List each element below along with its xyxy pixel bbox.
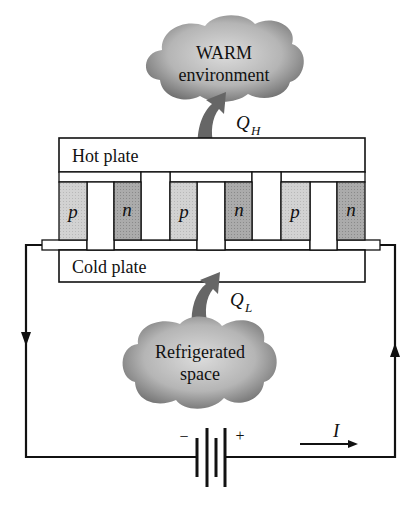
top-connectors (59, 172, 365, 182)
element-p: p (170, 182, 197, 240)
hot-plate-label: Hot plate (72, 146, 138, 166)
svg-text:n: n (234, 199, 244, 220)
current-label: I (332, 420, 341, 441)
element-p: p (59, 182, 87, 240)
thermoelectric-diagram: WARM environment Q H Hot plate Cold plat… (0, 0, 418, 506)
warm-label-line1: WARM (196, 43, 252, 63)
battery-minus: − (179, 428, 188, 445)
svg-text:p: p (288, 201, 300, 222)
current-direction-down-arrow (21, 332, 31, 346)
svg-text:n: n (346, 199, 356, 220)
battery-plus: + (235, 427, 244, 444)
refrigerated-space-cloud: Refrigerated space (123, 317, 277, 409)
current-arrow (300, 440, 358, 448)
cold-plate-label: Cold plate (72, 257, 147, 277)
hot-plate: Hot plate (59, 138, 365, 172)
warm-label-line2: environment (179, 65, 270, 85)
svg-text:n: n (122, 199, 132, 220)
qh-subscript: H (250, 123, 261, 138)
element-n: n (114, 182, 141, 240)
qh-symbol: Q (236, 112, 250, 133)
ql-subscript: L (244, 300, 252, 315)
warm-environment-cloud: WARM environment (146, 15, 304, 102)
cold-label-line2: space (180, 364, 220, 384)
cold-label-line1: Refrigerated (155, 342, 245, 362)
current-direction-up-arrow (390, 343, 400, 357)
element-p: p (281, 182, 310, 240)
svg-text:p: p (177, 201, 189, 222)
element-n: n (337, 182, 365, 240)
svg-text:p: p (66, 201, 78, 222)
battery (197, 428, 225, 487)
ql-symbol: Q (230, 289, 244, 310)
element-n: n (225, 182, 252, 240)
